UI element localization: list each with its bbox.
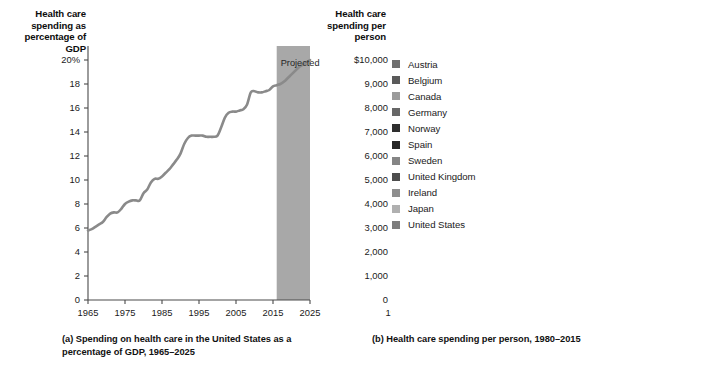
panel-b-ytick-label: 2,000 — [365, 246, 388, 257]
legend-swatch-icon — [392, 189, 400, 197]
legend-item[interactable]: Sweden — [392, 153, 476, 169]
legend-item-label: Sweden — [408, 155, 442, 166]
panel-b-ytick-label: 5,000 — [365, 174, 388, 185]
panel-b-ytick-label: 8,000 — [365, 102, 388, 113]
legend-item[interactable]: Spain — [392, 136, 476, 152]
legend-item[interactable]: Ireland — [392, 185, 476, 201]
panel-b-ytick-label: 3,000 — [365, 222, 388, 233]
legend-item[interactable]: Belgium — [392, 72, 476, 88]
legend-item[interactable]: Germany — [392, 104, 476, 120]
legend-item-label: Germany — [408, 107, 447, 118]
panel-b-ytick-label: 7,000 — [365, 126, 388, 137]
legend-swatch-icon — [392, 205, 400, 213]
panel-b-xtick-label: 1980 — [386, 307, 391, 318]
panel-b-plot: 01,0002,0003,0004,0005,0006,0007,0008,00… — [0, 0, 391, 330]
panel-b-ytick-label: 6,000 — [365, 150, 388, 161]
legend-item[interactable]: United Kingdom — [392, 169, 476, 185]
panel-a-caption: (a) Spending on health care in the Unite… — [62, 333, 334, 359]
legend-item[interactable]: United States — [392, 217, 476, 233]
legend-item-label: Spain — [408, 139, 432, 150]
legend-swatch-icon — [392, 92, 400, 100]
legend-item-label: Belgium — [408, 75, 442, 86]
panel-b-legend: AustriaBelgiumCanadaGermanyNorwaySpainSw… — [392, 56, 476, 233]
legend-item-label: United Kingdom — [408, 171, 476, 182]
legend-item-label: Austria — [408, 59, 438, 70]
legend-item-label: Ireland — [408, 187, 437, 198]
panel-b-ytick-label: 9,000 — [365, 78, 388, 89]
legend-item-label: United States — [408, 219, 465, 230]
panel-b-caption: (b) Health care spending per person, 198… — [372, 333, 672, 346]
legend-item[interactable]: Norway — [392, 120, 476, 136]
panel-b-ytick-label: 4,000 — [365, 198, 388, 209]
panel-b-ytick-label: $10,000 — [354, 54, 388, 65]
legend-swatch-icon — [392, 124, 400, 132]
legend-swatch-icon — [392, 141, 400, 149]
panel-b-health-spending-per-person: Health care spending per person 01,0002,… — [312, 0, 703, 374]
legend-swatch-icon — [392, 108, 400, 116]
legend-swatch-icon — [392, 221, 400, 229]
legend-item-label: Japan — [408, 203, 434, 214]
panel-b-ytick-label: 1,000 — [365, 270, 388, 281]
legend-swatch-icon — [392, 60, 400, 68]
legend-item-label: Canada — [408, 91, 441, 102]
legend-swatch-icon — [392, 157, 400, 165]
legend-item[interactable]: Japan — [392, 201, 476, 217]
figure-root: Health care spending as percentage of GD… — [0, 0, 703, 374]
legend-item-label: Norway — [408, 123, 440, 134]
panel-b-ytick-label: 0 — [383, 294, 388, 305]
legend-swatch-icon — [392, 76, 400, 84]
legend-item[interactable]: Canada — [392, 88, 476, 104]
legend-swatch-icon — [392, 173, 400, 181]
legend-item[interactable]: Austria — [392, 56, 476, 72]
